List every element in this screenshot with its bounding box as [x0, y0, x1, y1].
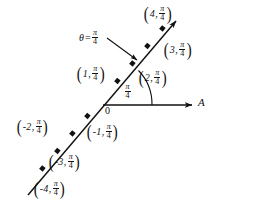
theta-fraction: π 4 — [35, 118, 42, 135]
figure-canvas — [0, 0, 253, 204]
origin-label: 0 — [105, 106, 110, 116]
radius-value: -1 — [92, 127, 101, 137]
radius-value: -3 — [54, 157, 63, 167]
paren-open: ( — [144, 7, 149, 21]
paren-open: ( — [49, 155, 54, 169]
paren-open: ( — [17, 120, 22, 134]
point-label-pt-neg3: ( -3 , π 4 ) — [48, 153, 81, 170]
paren-close: ) — [167, 7, 172, 21]
callout-leader-arrow — [107, 38, 137, 60]
angle-arc-label: π 4 — [124, 82, 131, 100]
theta-fraction: π 4 — [154, 69, 161, 86]
paren-open: ( — [164, 43, 169, 57]
paren-open: ( — [77, 67, 82, 81]
paren-close: ) — [162, 71, 167, 85]
polar-axis-label: A — [198, 97, 205, 108]
paren-open: ( — [87, 125, 92, 139]
paren-open: ( — [139, 71, 144, 85]
paren-close: ) — [75, 155, 80, 169]
point-label-pt-neg2: ( -2 , π 4 ) — [16, 118, 49, 135]
theta-callout-label: θ = π 4 — [79, 29, 99, 46]
radius-value: -4 — [39, 184, 48, 194]
theta-fraction: π 4 — [159, 5, 166, 22]
paren-open: ( — [34, 182, 39, 196]
radius-value: -2 — [22, 122, 31, 132]
theta-fraction: π 4 — [67, 153, 74, 170]
paren-close: ) — [113, 125, 118, 139]
point-label-pt-neg4: ( -4 , π 4 ) — [33, 180, 66, 197]
theta-fraction: π 4 — [179, 41, 186, 58]
theta-fraction: π 4 — [52, 180, 59, 197]
theta-fraction: π 4 — [92, 29, 99, 46]
point-label-pt-3: ( 3 , π 4 ) — [163, 41, 192, 58]
theta-fraction: π 4 — [92, 65, 99, 82]
paren-close: ) — [43, 120, 48, 134]
point-markers — [39, 25, 165, 171]
paren-close: ) — [187, 43, 192, 57]
equals-sign: = — [84, 33, 92, 43]
polar-coordinate-figure: ( 4 , π 4 ) ( 3 , π 4 ) ( 2 , π 4 ) ( 1 … — [0, 0, 253, 204]
point-label-pt-1: ( 1 , π 4 ) — [76, 65, 105, 82]
point-label-pt-neg1: ( -1 , π 4 ) — [86, 123, 119, 140]
point-label-pt-4: ( 4 , π 4 ) — [143, 5, 172, 22]
theta-fraction: π 4 — [105, 123, 112, 140]
point-label-pt-2: ( 2 , π 4 ) — [138, 69, 167, 86]
paren-close: ) — [60, 182, 65, 196]
theta-fraction: π 4 — [124, 83, 131, 100]
paren-close: ) — [100, 67, 105, 81]
